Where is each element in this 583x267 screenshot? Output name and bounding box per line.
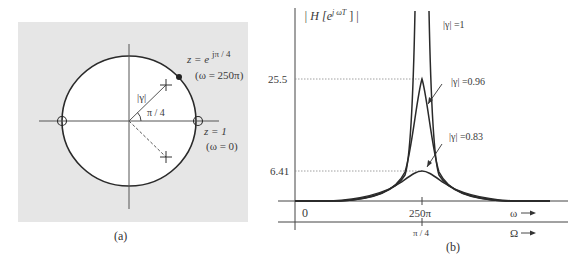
frequency-point xyxy=(176,74,182,80)
label-gamma-1: |γ| =1 xyxy=(443,19,465,30)
caption-b: (b) xyxy=(446,240,460,255)
caption-a: (a) xyxy=(114,229,127,244)
magnitude-response-panel: | H [ej ωT ] | 25.5 6.41 0 250π π / 4 ω … xyxy=(260,0,583,267)
xtick-250pi: 250π xyxy=(409,207,432,219)
Omega-axis-label: Ω xyxy=(510,227,518,239)
xtick-pi-over-4: π / 4 xyxy=(413,228,430,238)
omega-axis-label: ω xyxy=(510,207,517,219)
label-gamma-0-96: |γ| =0.96 xyxy=(451,76,485,87)
ytick-25-5: 25.5 xyxy=(268,73,288,85)
curve-gamma-1 xyxy=(295,11,550,201)
magnitude-plot: | H [ej ωT ] | 25.5 6.41 0 250π π / 4 ω … xyxy=(260,0,583,267)
ylabel-main: | H [ej ωT ] | xyxy=(304,8,359,23)
curve-gamma-0-96 xyxy=(295,79,550,201)
point-exp-label: jπ / 4 xyxy=(211,49,231,59)
ytick-6-41: 6.41 xyxy=(270,165,289,177)
label-gamma-0-83: |γ| =0.83 xyxy=(449,131,483,142)
point-z-label: z = e xyxy=(186,53,209,65)
pole-zero-panel: |γ| π / 4 z = e jπ / 4 (ω = 250π) z = 1 … xyxy=(0,0,260,267)
Omega-arrow-head xyxy=(530,231,536,236)
pole-zero-diagram: |γ| π / 4 z = e jπ / 4 (ω = 250π) z = 1 … xyxy=(0,0,260,267)
pole-radius-label: |γ| xyxy=(137,91,146,103)
omega-arrow-head xyxy=(530,211,536,216)
z1-omega-label: (ω = 0) xyxy=(206,140,238,153)
angle-label: π / 4 xyxy=(147,107,165,118)
z1-label: z = 1 xyxy=(203,125,227,137)
point-omega-label: (ω = 250π) xyxy=(195,69,244,82)
xtick-origin: 0 xyxy=(302,206,308,220)
curve-gamma-0-83 xyxy=(295,171,550,201)
